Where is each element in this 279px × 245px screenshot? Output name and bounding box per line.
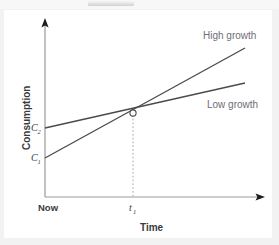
x-axis-tick-label-t1-subscript: 1 [133, 208, 136, 215]
y-axis-label-c2-subscript: 2 [38, 128, 42, 135]
x-axis-origin-label: Now [38, 202, 59, 213]
y-axis-title: Consumption [21, 86, 32, 150]
high-growth-label: High growth [203, 30, 256, 41]
x-axis-tick-label-t1: t 1 [129, 202, 136, 215]
crossover-point-marker[interactable] [130, 110, 136, 116]
x-axis-tick-label-t1-symbol: t [129, 202, 132, 213]
low-growth-label: Low growth [207, 99, 258, 110]
consumption-growth-line-chart: High growth Low growth Consumption C 2 C… [0, 0, 279, 245]
crossover-group [130, 110, 136, 196]
y-axis-label-c1: C 1 [31, 152, 41, 165]
x-axis-title: Time [140, 222, 164, 233]
y-axis-label-c2: C 2 [31, 122, 42, 135]
y-axis-label-c1-subscript: 1 [38, 158, 41, 165]
